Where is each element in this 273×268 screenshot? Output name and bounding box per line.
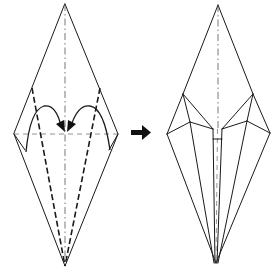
outer-edge-bottom-left (167, 134, 216, 263)
outer-edge-top-right (218, 5, 253, 94)
left-flap-lower (167, 122, 190, 134)
right-inner-edge-down (218, 121, 247, 263)
outer-edge-top-left (183, 5, 218, 94)
arrowhead-right-icon (67, 120, 76, 132)
center-strip-left (213, 129, 215, 263)
origami-diagram (0, 0, 273, 268)
center-strip-crease (216, 129, 218, 260)
step-arrow-icon (131, 125, 151, 140)
outer-edge-mid-right (253, 94, 270, 133)
center-strip-right (217, 129, 222, 263)
valley-fold-right (65, 88, 100, 266)
outer-edge-mid-left (167, 94, 183, 134)
outer-edge-bottom-right (216, 133, 270, 263)
step-before-figure (14, 4, 118, 266)
arrowhead-left-icon (56, 120, 65, 132)
paper-outline (14, 4, 118, 266)
step-after-figure (167, 5, 270, 263)
flap-edge-right (109, 134, 118, 150)
fold-arrow-right (71, 106, 110, 150)
fold-arrow-left (26, 106, 61, 152)
left-inner-edge-down (190, 122, 214, 263)
right-flap-lower (247, 121, 270, 133)
valley-fold-left (32, 88, 65, 266)
